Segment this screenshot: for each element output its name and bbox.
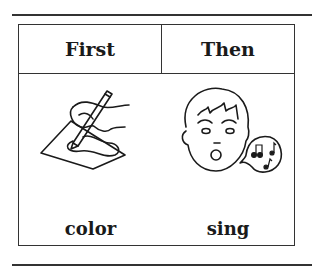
activity-first: color [19,218,162,239]
coloring-icon [33,81,143,171]
bottom-rule [12,264,312,266]
board-header: First Then [19,25,294,74]
header-first: First [19,25,162,73]
board-body: color [19,73,294,245]
panel-then: sing [162,73,294,245]
activity-then: sing [162,218,294,239]
header-then: Then [162,25,294,73]
first-then-board: First Then colo [18,24,295,246]
top-rule [12,14,312,16]
singing-icon [168,79,288,179]
panel-first: color [19,73,162,245]
